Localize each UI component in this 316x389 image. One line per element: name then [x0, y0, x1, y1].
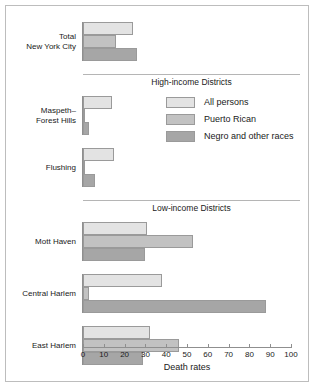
bar	[83, 122, 89, 135]
legend-swatch-negro-and-other-races	[166, 131, 195, 142]
legend-swatch-puerto-rican	[166, 114, 195, 125]
legend-label-puerto-rican: Puerto Rican	[204, 113, 256, 126]
bar	[83, 235, 193, 248]
axis-title-death-rates: Death rates	[83, 361, 291, 373]
section-divider	[83, 200, 300, 201]
category-label: Maspeth– Forest Hills	[0, 106, 76, 126]
category-label: Mott Haven	[0, 237, 76, 247]
bar	[83, 22, 133, 35]
bar	[83, 274, 162, 287]
bar	[83, 287, 89, 300]
legend-label-all-persons: All persons	[204, 96, 249, 109]
bar	[83, 248, 145, 261]
bar	[83, 300, 266, 313]
bar	[83, 35, 116, 48]
axis-tick	[187, 344, 188, 348]
legend-label-negro-and-other-races: Negro and other races	[204, 130, 294, 143]
bar	[83, 326, 150, 339]
bar	[83, 96, 112, 109]
axis-tick	[229, 344, 230, 348]
section-caption: Low-income Districts	[83, 203, 300, 214]
axis-tick	[270, 344, 271, 348]
plot-area: Total New York CityHigh-income Districts…	[6, 6, 308, 381]
category-label: Central Harlem	[0, 289, 76, 299]
value-axis: 0102030405060708090100	[83, 347, 291, 348]
axis-tick	[291, 344, 292, 348]
axis-tick	[145, 344, 146, 348]
chart-figure: Total New York CityHigh-income Districts…	[5, 5, 309, 382]
bar	[83, 148, 114, 161]
bar	[83, 109, 85, 122]
section-caption: High-income Districts	[83, 77, 300, 88]
category-label: Total New York City	[0, 32, 76, 52]
bar	[83, 222, 147, 235]
category-label: Flushing	[0, 163, 76, 173]
bar	[83, 48, 137, 61]
axis-tick-label: 100	[276, 350, 306, 360]
axis-tick	[104, 344, 105, 348]
bar	[83, 174, 95, 187]
axis-tick	[83, 344, 84, 348]
section-divider	[83, 74, 300, 75]
legend-swatch-all-persons	[166, 97, 195, 108]
axis-tick	[166, 344, 167, 348]
axis-tick	[208, 344, 209, 348]
bar	[83, 161, 85, 174]
axis-tick	[249, 344, 250, 348]
axis-tick	[125, 344, 126, 348]
category-label: East Harlem	[0, 341, 76, 351]
